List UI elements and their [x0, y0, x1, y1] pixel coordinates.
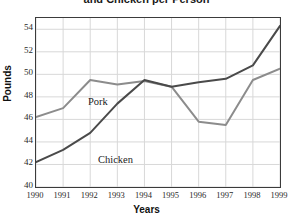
- line-chart-figure: and Chicken per Person Pounds 4042444648…: [0, 0, 293, 223]
- y-tick-label: 44: [3, 135, 33, 145]
- chart-title: and Chicken per Person: [0, 0, 293, 5]
- x-tick-label: 1999: [262, 190, 293, 200]
- x-axis-title: Years: [0, 204, 293, 215]
- y-tick-label: 42: [3, 157, 33, 167]
- vertical-gridlines: [36, 18, 280, 187]
- x-axis-tick-labels: 1990199119921993199419951996199719981999: [35, 190, 281, 204]
- y-tick-label: 46: [3, 112, 33, 122]
- plot-area: Pork Chicken: [35, 17, 281, 188]
- y-tick-label: 50: [3, 67, 33, 77]
- y-tick-label: 40: [3, 180, 33, 190]
- horizontal-gridlines: [36, 29, 280, 187]
- y-tick-label: 54: [3, 22, 33, 32]
- y-tick-label: 52: [3, 45, 33, 55]
- series-label-pork: Pork: [88, 96, 108, 107]
- plot-canvas: [36, 18, 280, 187]
- y-tick-label: 48: [3, 90, 33, 100]
- series-label-chicken: Chicken: [98, 154, 133, 165]
